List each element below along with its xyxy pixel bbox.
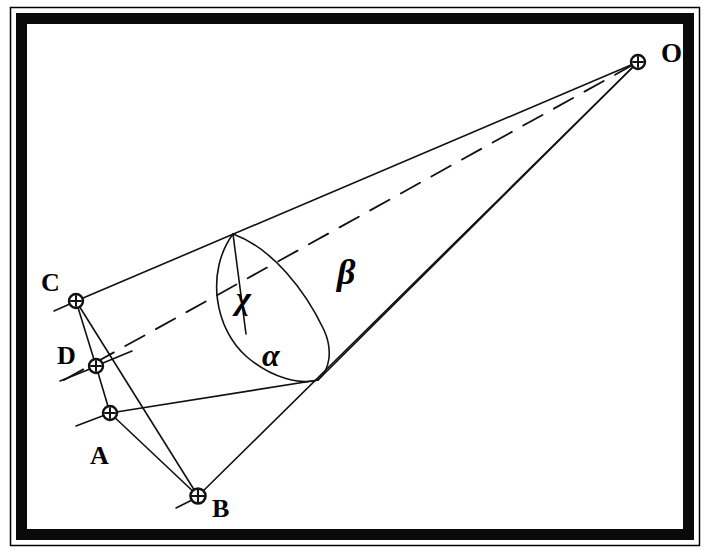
point-label-A: A <box>90 441 109 470</box>
point-marker-D <box>89 359 103 373</box>
point-marker-B <box>191 489 206 504</box>
figure-root: O C D A B χ α β <box>0 0 709 553</box>
angle-label-beta: β <box>335 252 356 292</box>
point-label-O: O <box>661 38 682 68</box>
point-marker-A <box>103 406 117 420</box>
angle-label-alpha: α <box>262 337 281 373</box>
cone-geometry-diagram: O C D A B χ α β <box>0 0 709 553</box>
point-label-C: C <box>41 268 60 297</box>
point-marker-C <box>69 294 83 308</box>
point-marker-O <box>631 55 645 69</box>
point-label-D: D <box>57 341 76 370</box>
point-label-B: B <box>212 494 229 523</box>
